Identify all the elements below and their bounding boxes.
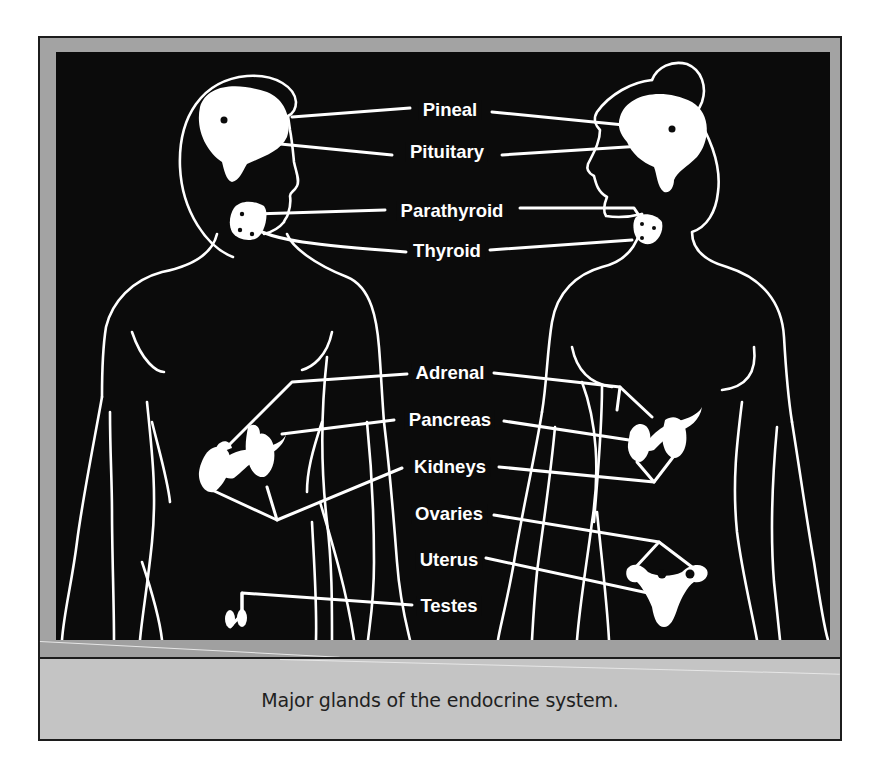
label-testes: Testes <box>416 596 481 616</box>
label-layer: Pineal Pituitary Parathyroid Thyroid Adr… <box>56 52 830 640</box>
caption-box: Major glands of the endocrine system. <box>40 659 840 739</box>
label-parathyroid: Parathyroid <box>397 201 508 221</box>
figure-caption: Major glands of the endocrine system. <box>40 689 840 711</box>
light-streak-caption <box>280 659 840 675</box>
label-kidneys: Kidneys <box>410 457 490 477</box>
label-pineal: Pineal <box>419 100 482 120</box>
endocrine-diagram-panel: Pineal Pituitary Parathyroid Thyroid Adr… <box>56 52 830 640</box>
label-uterus: Uterus <box>416 550 483 570</box>
label-ovaries: Ovaries <box>411 504 487 524</box>
frame-bottom-band <box>40 640 840 658</box>
label-pancreas: Pancreas <box>405 410 495 430</box>
label-pituitary: Pituitary <box>406 142 488 162</box>
figure-frame: Pineal Pituitary Parathyroid Thyroid Adr… <box>38 36 842 741</box>
label-adrenal: Adrenal <box>412 363 489 383</box>
label-thyroid: Thyroid <box>409 241 485 261</box>
